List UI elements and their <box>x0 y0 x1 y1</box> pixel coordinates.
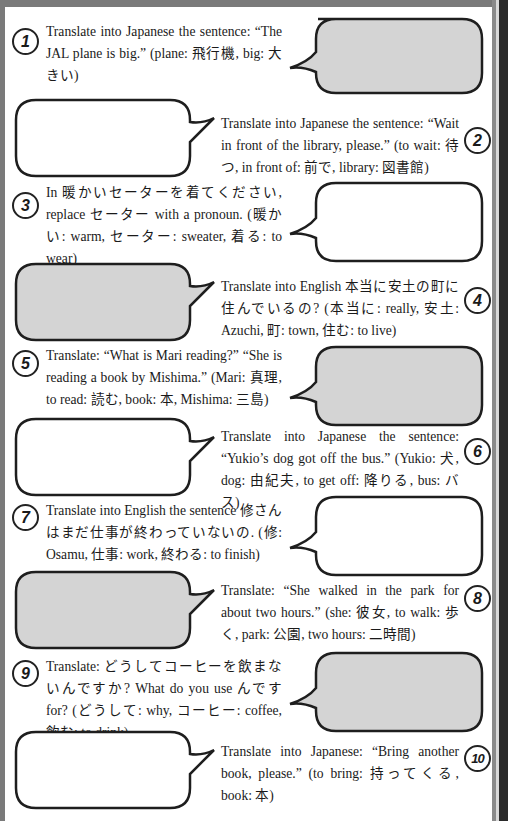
exercise-prompt: Translate into Japanese the sentence: “T… <box>46 21 282 87</box>
exercise-number-badge: 10 <box>464 745 491 772</box>
speech-bubble-shape <box>6 415 216 499</box>
exercise-number-badge: 7 <box>12 504 39 531</box>
exercise-number-badge: 4 <box>464 287 491 314</box>
page-frame-top <box>0 0 508 7</box>
exercise-number-badge: 6 <box>464 438 491 465</box>
speech-bubble-shape <box>286 494 486 578</box>
answer-bubble-white[interactable] <box>6 96 216 180</box>
exercise-number-badge: 9 <box>12 660 39 687</box>
answer-bubble-gray[interactable] <box>286 344 486 428</box>
answer-bubble-gray[interactable] <box>286 16 486 96</box>
speech-bubble-shape <box>6 96 216 180</box>
page-frame-left <box>0 0 5 821</box>
speech-bubble-shape <box>286 16 486 96</box>
answer-bubble-white[interactable] <box>6 728 216 812</box>
page-frame-right-outer <box>499 0 508 821</box>
exercise-number-badge: 1 <box>12 28 39 55</box>
exercise-prompt: Translate into English the sentence 修さんは… <box>46 500 282 566</box>
answer-bubble-gray[interactable] <box>6 568 216 652</box>
speech-bubble-shape <box>6 568 216 652</box>
answer-bubble-white[interactable] <box>286 494 486 578</box>
answer-bubble-gray[interactable] <box>6 260 216 344</box>
exercise-prompt: Translate: “She walked in the park for a… <box>221 580 459 646</box>
speech-bubble-shape <box>286 180 486 264</box>
speech-bubble-shape <box>286 344 486 428</box>
speech-bubble-shape <box>6 728 216 812</box>
answer-bubble-white[interactable] <box>286 180 486 264</box>
exercise-prompt: Translate into Japanese the sentence: “W… <box>221 113 459 179</box>
speech-bubble-shape <box>286 650 486 734</box>
exercise-number-badge: 2 <box>464 127 491 154</box>
exercise-prompt: Translate into English 本当に安土の町に住んでいるの? (… <box>221 276 459 342</box>
answer-bubble-white[interactable] <box>6 415 216 499</box>
exercise-prompt: Translate: “What is Mari reading?” “She … <box>46 345 282 411</box>
exercise-number-badge: 5 <box>12 350 39 377</box>
exercise-prompt: In 暖かいセーターを着てください, replace セーター with a p… <box>46 182 282 270</box>
exercise-number-badge: 8 <box>464 585 491 612</box>
speech-bubble-shape <box>6 260 216 344</box>
exercise-number-badge: 3 <box>12 192 39 219</box>
answer-bubble-gray[interactable] <box>286 650 486 734</box>
exercise-prompt: Translate into Japanese: “Bring another … <box>221 741 459 807</box>
